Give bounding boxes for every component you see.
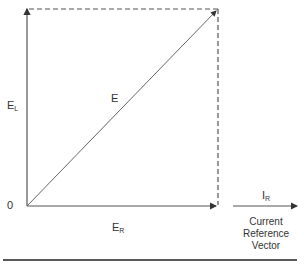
caption-line-1: Current xyxy=(236,216,296,228)
label-el: EL xyxy=(7,100,18,112)
label-ir-sub: R xyxy=(265,195,270,202)
label-origin: 0 xyxy=(7,200,13,211)
vector-e xyxy=(27,11,216,206)
label-el-sub: L xyxy=(14,105,18,112)
label-e: E xyxy=(111,93,118,104)
label-er-sub: R xyxy=(119,227,124,234)
caption-line-3: Vector xyxy=(236,240,296,252)
reference-caption: Current Reference Vector xyxy=(236,216,296,252)
caption-line-2: Reference xyxy=(236,228,296,240)
label-ir: IR xyxy=(262,190,270,202)
label-er: ER xyxy=(112,222,124,234)
